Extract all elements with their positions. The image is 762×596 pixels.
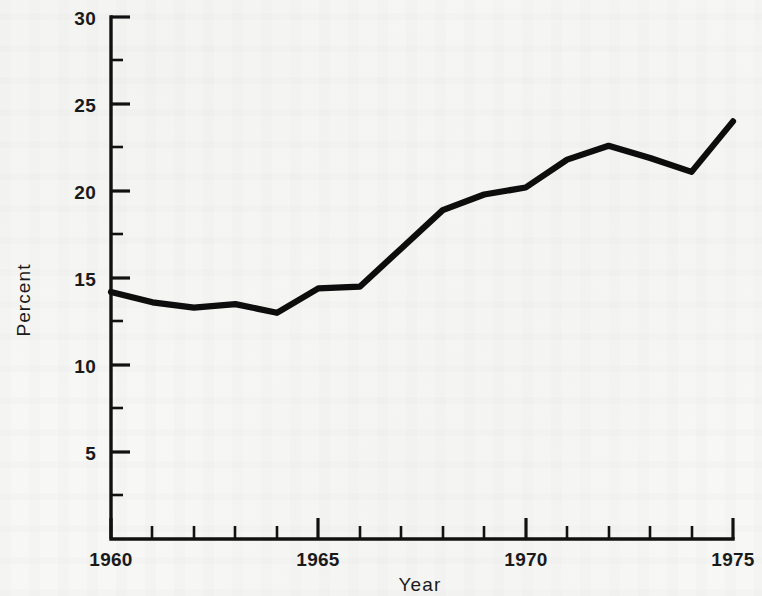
y-axis-ticks bbox=[111, 17, 130, 495]
y-axis-title: Percent bbox=[13, 263, 34, 336]
y-tick-label-15: 15 bbox=[74, 269, 96, 290]
chart-figure: 30 25 20 15 10 5 Percent 1960 bbox=[0, 0, 762, 596]
y-tick-label-5: 5 bbox=[85, 443, 96, 464]
data-series-line bbox=[111, 121, 733, 312]
y-tick-label-30: 30 bbox=[74, 8, 96, 29]
y-tick-label-25: 25 bbox=[74, 95, 96, 116]
x-axis-ticks bbox=[111, 518, 733, 539]
x-axis-title: Year bbox=[399, 574, 442, 595]
x-tick-label-1970: 1970 bbox=[504, 549, 547, 570]
line-chart: 30 25 20 15 10 5 Percent 1960 bbox=[0, 0, 762, 596]
x-tick-label-1960: 1960 bbox=[89, 549, 132, 570]
y-tick-label-20: 20 bbox=[74, 182, 96, 203]
x-tick-label-1975: 1975 bbox=[711, 549, 755, 570]
y-tick-label-10: 10 bbox=[74, 356, 96, 377]
axis-spine bbox=[111, 17, 733, 539]
x-tick-label-1965: 1965 bbox=[296, 549, 340, 570]
